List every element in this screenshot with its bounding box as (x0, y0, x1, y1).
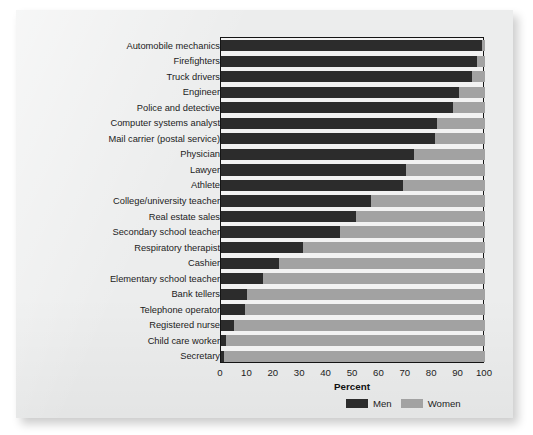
category-label: Secretary (60, 351, 220, 361)
legend-label-men: Men (373, 398, 392, 409)
category-label: Lawyer (60, 165, 220, 175)
bar-segment-women (245, 304, 485, 315)
category-label: Telephone operator (60, 305, 220, 315)
bar-segment-men (221, 289, 247, 300)
bar-row (221, 133, 483, 144)
chart-screenshot: Automobile mechanicsFirefightersTruck dr… (0, 0, 533, 435)
category-label: Mail carrier (postal service) (60, 134, 220, 144)
chart-legend: Men Women (346, 398, 461, 409)
stacked-bar-chart: Automobile mechanicsFirefightersTruck dr… (16, 10, 513, 418)
bar-segment-men (221, 118, 437, 129)
bar-segment-women (356, 211, 485, 222)
bar-row (221, 226, 483, 237)
category-label: Police and detective (60, 103, 220, 113)
category-label: Engineer (60, 87, 220, 97)
x-tick-label: 10 (241, 367, 252, 378)
bar-segment-women (340, 226, 485, 237)
bar-segment-women (477, 56, 485, 67)
category-label: Bank tellers (60, 289, 220, 299)
x-tick-label: 50 (347, 367, 358, 378)
bar-segment-women (247, 289, 485, 300)
bar-segment-women (472, 71, 485, 82)
bar-row (221, 149, 483, 160)
x-tick-label: 60 (373, 367, 384, 378)
bar-row (221, 304, 483, 315)
bar-row (221, 71, 483, 82)
bar-segment-men (221, 242, 303, 253)
bar-row (221, 289, 483, 300)
x-tick-label: 70 (399, 367, 410, 378)
bar-segment-men (221, 273, 263, 284)
bar-row (221, 242, 483, 253)
x-axis-title: Percent (220, 381, 484, 392)
category-label: Athlete (60, 180, 220, 190)
bar-row (221, 335, 483, 346)
category-label: Cashier (60, 258, 220, 268)
bar-segment-men (221, 87, 459, 98)
bar-segment-women (437, 118, 485, 129)
category-label: Real estate sales (60, 212, 220, 222)
bar-segment-women (406, 164, 485, 175)
bar-segment-women (234, 320, 485, 331)
bar-row (221, 195, 483, 206)
bar-segment-men (221, 226, 340, 237)
bar-segment-men (221, 211, 356, 222)
bar-segment-men (221, 102, 453, 113)
bar-segment-men (221, 71, 472, 82)
bar-segment-women (303, 242, 485, 253)
x-tick-label: 20 (267, 367, 278, 378)
x-tick-label: 40 (320, 367, 331, 378)
bar-segment-men (221, 304, 245, 315)
category-label: College/university teacher (60, 196, 220, 206)
bar-row (221, 351, 483, 362)
bar-row (221, 87, 483, 98)
bar-segment-women (459, 87, 485, 98)
bar-segment-men (221, 164, 406, 175)
category-label: Automobile mechanics (60, 41, 220, 51)
bar-row (221, 258, 483, 269)
category-axis-labels: Automobile mechanicsFirefightersTruck dr… (60, 37, 220, 363)
bar-row (221, 164, 483, 175)
bar-row (221, 211, 483, 222)
x-tick-label: 80 (426, 367, 437, 378)
bar-segment-women (371, 195, 485, 206)
bar-segment-men (221, 258, 279, 269)
bar-segment-women (279, 258, 485, 269)
x-tick-label: 100 (476, 367, 492, 378)
category-label: Registered nurse (60, 320, 220, 330)
bar-row (221, 102, 483, 113)
x-tick-label: 90 (452, 367, 463, 378)
bar-row (221, 56, 483, 67)
bar-row (221, 273, 483, 284)
legend-swatch-women-icon (401, 399, 423, 408)
bar-row (221, 118, 483, 129)
bar-segment-women (453, 102, 485, 113)
legend-swatch-men-icon (346, 399, 368, 408)
bar-segment-women (403, 180, 485, 191)
category-label: Elementary school teacher (60, 274, 220, 284)
bar-segment-men (221, 195, 371, 206)
bar-segment-women (435, 133, 485, 144)
x-tick-label: 30 (294, 367, 305, 378)
category-label: Truck drivers (60, 72, 220, 82)
x-tick-label: 0 (217, 367, 222, 378)
bar-row (221, 180, 483, 191)
category-label: Physician (60, 149, 220, 159)
bar-segment-men (221, 320, 234, 331)
bar-segment-women (482, 40, 485, 51)
bar-row (221, 320, 483, 331)
bar-segment-women (224, 351, 485, 362)
bar-segment-women (226, 335, 485, 346)
category-label: Respiratory therapist (60, 243, 220, 253)
legend-item-women: Women (401, 398, 461, 409)
category-label: Secondary school teacher (60, 227, 220, 237)
bar-segment-women (414, 149, 485, 160)
bar-segment-men (221, 133, 435, 144)
bar-segment-men (221, 149, 414, 160)
bar-segment-women (263, 273, 485, 284)
category-label: Computer systems analyst (60, 118, 220, 128)
category-label: Firefighters (60, 56, 220, 66)
bar-segment-men (221, 56, 477, 67)
bar-row (221, 40, 483, 51)
bar-segment-men (221, 40, 482, 51)
